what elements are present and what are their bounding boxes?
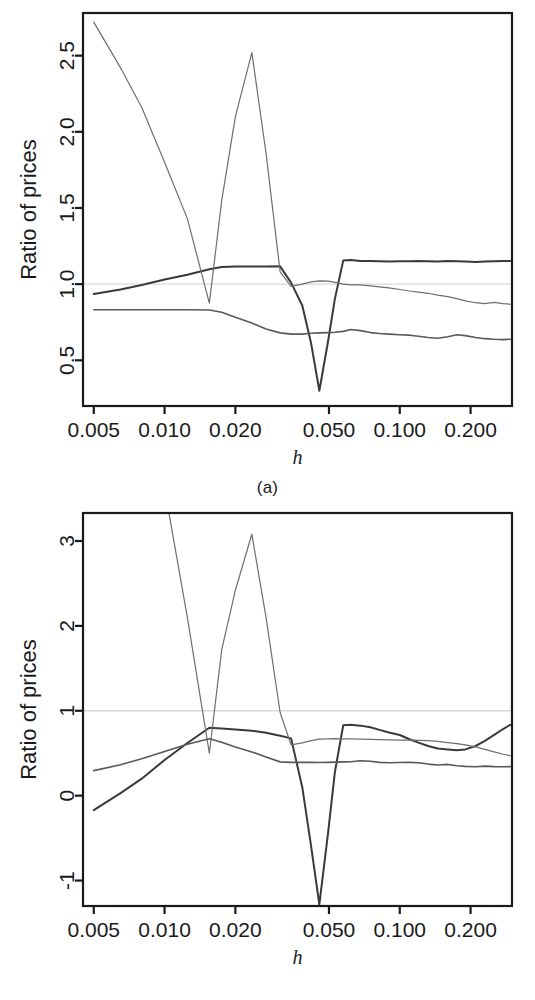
x-axis-tick-label: 0.100	[373, 418, 426, 441]
x-axis-tick-label: 0.050	[303, 418, 356, 441]
y-axis-tick-label: 1.5	[56, 193, 79, 222]
x-axis-tick-label: 0.010	[138, 418, 191, 441]
series-group	[94, 22, 511, 391]
x-axis-tick-label: 0.050	[303, 918, 356, 941]
figure-container: 0.51.01.52.02.50.0050.0100.0200.0500.100…	[0, 0, 535, 1000]
x-axis-tick-label: 0.005	[67, 418, 120, 441]
x-axis-title: h	[293, 446, 303, 468]
x-axis-tick-label: 0.100	[373, 918, 426, 941]
plot-frame	[83, 513, 512, 906]
y-axis-tick-label: 2.5	[56, 41, 79, 70]
x-axis-tick-label: 0.200	[444, 418, 497, 441]
y-axis-title: Ratio of prices	[16, 639, 41, 780]
data-line-series-3-mid-flat	[94, 310, 511, 340]
y-axis-tick-label: 1.0	[56, 270, 79, 299]
x-axis-tick-label: 0.020	[209, 918, 262, 941]
x-axis-tick-label: 0.200	[444, 918, 497, 941]
y-axis-tick-label: 2.0	[56, 117, 79, 146]
panel-a-caption: (a)	[0, 478, 535, 498]
plot-frame	[83, 13, 512, 406]
plot-area-b: -101230.0050.0100.0200.0500.1000.200hRat…	[0, 500, 535, 1000]
x-axis-tick-label: 0.020	[209, 418, 262, 441]
panel-b: -101230.0050.0100.0200.0500.1000.200hRat…	[0, 500, 535, 1000]
x-axis-tick-label: 0.010	[138, 918, 191, 941]
y-axis-tick-label: -1	[56, 871, 79, 890]
y-axis-tick-label: 1	[56, 705, 79, 717]
data-line-series-1-dark	[94, 725, 511, 905]
y-axis-tick-label: 3	[56, 535, 79, 547]
y-axis-tick-label: 0.5	[56, 346, 79, 375]
y-axis-tick-label: 0	[56, 790, 79, 802]
x-axis-tick-label: 0.005	[67, 918, 120, 941]
panel-a: 0.51.01.52.02.50.0050.0100.0200.0500.100…	[0, 0, 535, 500]
plot-area-a: 0.51.01.52.02.50.0050.0100.0200.0500.100…	[0, 0, 535, 500]
data-line-series-2-thin-spiky	[94, 500, 511, 756]
y-axis-tick-label: 2	[56, 620, 79, 632]
y-axis-title: Ratio of prices	[16, 139, 41, 280]
series-group	[94, 500, 511, 904]
data-line-series-1-dark	[94, 260, 511, 391]
x-axis-title: h	[293, 946, 303, 968]
